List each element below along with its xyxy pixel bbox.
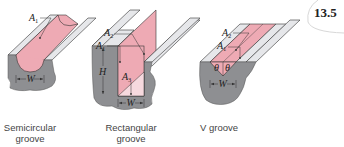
v-groove-panel: θ θ A2 A1 W V groove — [200, 20, 300, 133]
caption-line2: groove — [116, 133, 145, 144]
figure-number: 13.5 — [314, 5, 337, 20]
label-theta-right: θ — [225, 62, 230, 73]
caption-line2: groove — [15, 133, 44, 144]
label-h: H — [98, 66, 107, 77]
caption-line1: V groove — [200, 122, 238, 133]
caption-line1: Semicircular — [4, 122, 56, 133]
figure-number-badge: 13.5 — [308, 0, 344, 33]
semicircular-groove-panel: A1 W Semicircular groove — [4, 12, 96, 144]
rectangular-groove-panel: A2 A1 A3 H W Rectangular groove — [92, 10, 200, 144]
label-a2: A2 — [221, 27, 231, 39]
caption-line1: Rectangular — [105, 122, 156, 133]
label-theta-left: θ — [214, 62, 219, 73]
groove-diagram: 13.5 A1 W Semicircular groove — [0, 0, 344, 147]
label-a1: A1 — [28, 12, 38, 24]
